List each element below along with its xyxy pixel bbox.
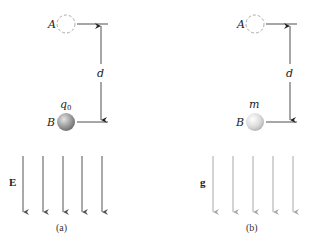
- diagram-canvas: A d q0 B E (a) A: [0, 0, 311, 251]
- particle-label: q0: [60, 98, 72, 112]
- electric-field-arrows: [23, 156, 102, 212]
- caption-a: (a): [56, 222, 67, 234]
- field-label-e: E: [9, 176, 16, 188]
- charge-particle: [57, 113, 75, 131]
- point-a-label: A: [47, 18, 56, 31]
- point-b-label: B: [46, 116, 55, 129]
- point-b-label: B: [235, 116, 244, 129]
- field-label-g: g: [200, 176, 206, 188]
- gravitational-field-arrows: [213, 156, 293, 212]
- panel-a: A d q0 B E (a): [9, 15, 108, 234]
- point-a-label: A: [236, 18, 245, 31]
- panel-b: A d m B g (b): [200, 15, 297, 234]
- position-a-outline: [246, 15, 264, 33]
- particle-label: m: [249, 98, 259, 111]
- mass-particle: [246, 113, 264, 131]
- distance-label: d: [286, 67, 293, 80]
- caption-b: (b): [246, 222, 258, 234]
- distance-label: d: [97, 67, 104, 80]
- position-a-outline: [57, 15, 75, 33]
